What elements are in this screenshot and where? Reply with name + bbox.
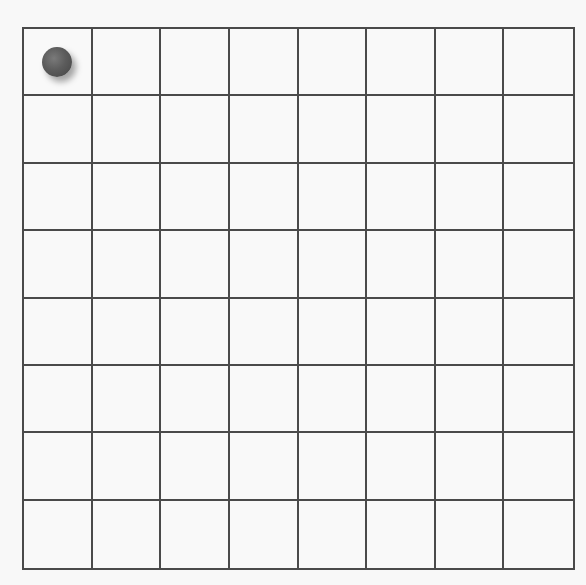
board-cell-r6-c1[interactable]	[93, 433, 162, 500]
board-cell-r4-c0[interactable]	[24, 299, 93, 366]
board-cell-r6-c0[interactable]	[24, 433, 93, 500]
board-cell-r5-c0[interactable]	[24, 366, 93, 433]
board-cell-r1-c1[interactable]	[93, 96, 162, 163]
game-stage	[0, 0, 586, 585]
board-cell-r6-c4[interactable]	[299, 433, 368, 500]
board-cell-r7-c6[interactable]	[436, 501, 505, 568]
board-cell-r1-c2[interactable]	[161, 96, 230, 163]
board-cell-r6-c3[interactable]	[230, 433, 299, 500]
board-cell-r0-c0[interactable]	[24, 29, 93, 96]
board-cell-r7-c3[interactable]	[230, 501, 299, 568]
board-cell-r0-c5[interactable]	[367, 29, 436, 96]
board-cell-r4-c4[interactable]	[299, 299, 368, 366]
board-cell-r3-c7[interactable]	[504, 231, 573, 298]
board-cell-r2-c3[interactable]	[230, 164, 299, 231]
board-cell-r3-c3[interactable]	[230, 231, 299, 298]
board-cell-r4-c3[interactable]	[230, 299, 299, 366]
board-cell-r1-c4[interactable]	[299, 96, 368, 163]
board-cell-r2-c0[interactable]	[24, 164, 93, 231]
board-cell-r4-c6[interactable]	[436, 299, 505, 366]
ball-piece-icon[interactable]	[42, 47, 72, 77]
board-cell-r0-c1[interactable]	[93, 29, 162, 96]
board-cell-r7-c4[interactable]	[299, 501, 368, 568]
board-cell-r1-c0[interactable]	[24, 96, 93, 163]
board-cell-r5-c1[interactable]	[93, 366, 162, 433]
board-cell-r2-c4[interactable]	[299, 164, 368, 231]
board-cell-r2-c6[interactable]	[436, 164, 505, 231]
board-cell-r5-c5[interactable]	[367, 366, 436, 433]
board-cell-r1-c7[interactable]	[504, 96, 573, 163]
board-cell-r0-c7[interactable]	[504, 29, 573, 96]
board-cell-r3-c5[interactable]	[367, 231, 436, 298]
board-cell-r6-c5[interactable]	[367, 433, 436, 500]
board-cell-r1-c3[interactable]	[230, 96, 299, 163]
board-cell-r7-c2[interactable]	[161, 501, 230, 568]
board-cell-r6-c2[interactable]	[161, 433, 230, 500]
board-cell-r3-c0[interactable]	[24, 231, 93, 298]
board-cell-r5-c2[interactable]	[161, 366, 230, 433]
board-cell-r1-c6[interactable]	[436, 96, 505, 163]
board-cell-r7-c7[interactable]	[504, 501, 573, 568]
board-cell-r3-c2[interactable]	[161, 231, 230, 298]
board-cell-r4-c1[interactable]	[93, 299, 162, 366]
board-cell-r3-c4[interactable]	[299, 231, 368, 298]
board-cell-r0-c2[interactable]	[161, 29, 230, 96]
board-cell-r0-c4[interactable]	[299, 29, 368, 96]
board-cell-r2-c5[interactable]	[367, 164, 436, 231]
board-cell-r5-c3[interactable]	[230, 366, 299, 433]
board-cell-r7-c5[interactable]	[367, 501, 436, 568]
board-cell-r6-c6[interactable]	[436, 433, 505, 500]
board-cell-r0-c6[interactable]	[436, 29, 505, 96]
board-cell-r4-c5[interactable]	[367, 299, 436, 366]
board-cell-r2-c7[interactable]	[504, 164, 573, 231]
board-cell-r5-c4[interactable]	[299, 366, 368, 433]
game-board	[22, 27, 575, 570]
board-cell-r7-c1[interactable]	[93, 501, 162, 568]
board-cell-r3-c6[interactable]	[436, 231, 505, 298]
board-cell-r4-c2[interactable]	[161, 299, 230, 366]
board-cell-r7-c0[interactable]	[24, 501, 93, 568]
board-cell-r0-c3[interactable]	[230, 29, 299, 96]
board-cell-r2-c2[interactable]	[161, 164, 230, 231]
board-cell-r6-c7[interactable]	[504, 433, 573, 500]
board-cell-r5-c6[interactable]	[436, 366, 505, 433]
board-cell-r2-c1[interactable]	[93, 164, 162, 231]
board-cell-r3-c1[interactable]	[93, 231, 162, 298]
board-cell-r4-c7[interactable]	[504, 299, 573, 366]
board-cell-r1-c5[interactable]	[367, 96, 436, 163]
board-cell-r5-c7[interactable]	[504, 366, 573, 433]
